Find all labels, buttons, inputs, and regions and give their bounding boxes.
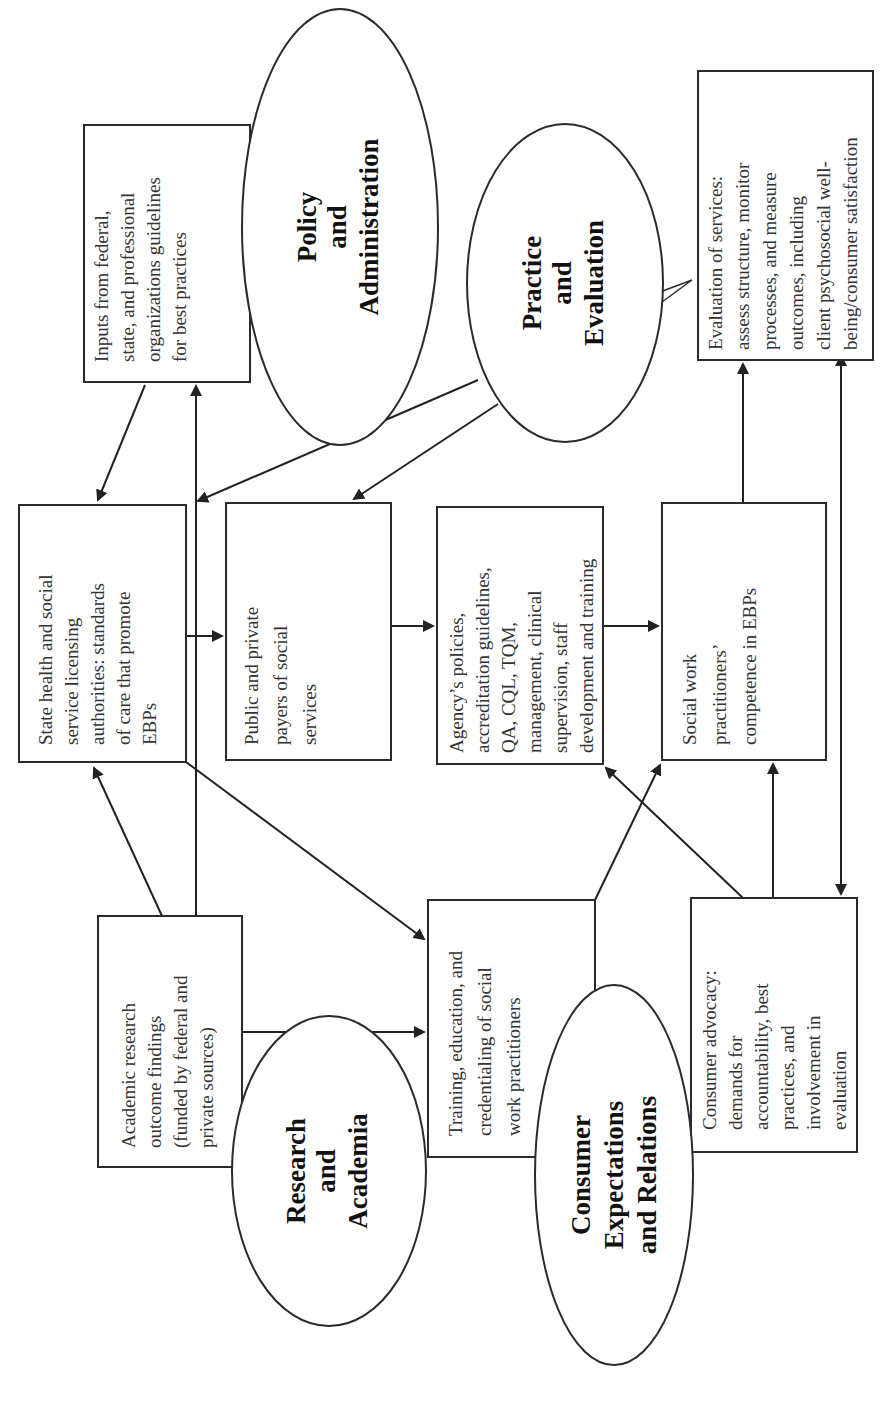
text-line: EBPs [139, 703, 160, 745]
text-line: Social work [679, 653, 700, 745]
text-line: QA, CQL, TQM, [498, 622, 519, 753]
text-line: Training, education, and [445, 950, 466, 1136]
evidence-based-practice-diagram: Inputs from federal, state, and professi… [0, 0, 895, 1415]
text-line: evaluation [829, 1050, 850, 1130]
text-line: outcomes, including [786, 195, 807, 350]
text-line: of care that promote [113, 591, 134, 745]
label-line: Research [281, 1118, 311, 1224]
text-line: supervision, staff [550, 622, 571, 753]
text-line: authorities: standards [87, 583, 108, 745]
text-line: being/consumer satisfaction [840, 137, 861, 350]
text-line: organizations guidelines [143, 177, 164, 362]
arrow-state-health-to-training [186, 762, 424, 939]
text-line: payers of social [270, 626, 291, 745]
label-line: and Relations [632, 1096, 662, 1254]
label-line: Practice [517, 236, 547, 330]
label-line: Evaluation [579, 220, 609, 346]
text-line: accountability, best [751, 983, 772, 1130]
text-line: for best practices [169, 232, 190, 362]
text-line: practitioners’ [709, 644, 730, 745]
label-line: Administration [354, 138, 384, 315]
consumer-label: Consumer Expectations and Relations [566, 1096, 662, 1254]
text-line: accreditation guidelines, [472, 567, 493, 753]
text-line: Public and private [241, 607, 262, 745]
text-line: Academic research [118, 1002, 139, 1148]
label-line: and [547, 261, 577, 305]
text-line: demands for [725, 1035, 746, 1130]
text-line: development and training [576, 558, 597, 753]
text-line: involvement in [803, 1015, 824, 1130]
text-line: private sources) [196, 1027, 218, 1148]
text-line: outcome findings [144, 1016, 165, 1148]
text-line: State health and social [35, 575, 56, 745]
callout-tail [660, 280, 692, 302]
text-line: credentialing of social [474, 967, 495, 1136]
label-line: Academia [343, 1113, 373, 1229]
text-line: services [299, 684, 320, 745]
text-line: management, clinical [524, 591, 545, 753]
text-line: Agency’s policies, [446, 613, 467, 753]
text-line: state, and professional [117, 193, 138, 362]
label-line: and [322, 205, 352, 249]
text-line: competence in EBPs [739, 588, 760, 745]
text-line: Evaluation of services: [705, 176, 726, 350]
label-line: Policy [292, 191, 322, 262]
text-line: Consumer advocacy: [699, 970, 720, 1130]
arrow-academic-to-state-health [94, 768, 162, 916]
text-line: client psychosocial well- [813, 161, 834, 350]
text-line: (funded by federal and [170, 975, 192, 1148]
text-line: service licensing [61, 617, 82, 745]
text-line: assess structure, monitor [732, 162, 753, 350]
label-line: Expectations [599, 1101, 629, 1250]
text-line: practices, and [777, 1025, 798, 1130]
text-line: Inputs from federal, [91, 211, 112, 362]
label-line: and [311, 1149, 341, 1193]
arrow-training-to-competence [595, 765, 660, 900]
label-line: Consumer [566, 1115, 596, 1235]
text-line: processes, and measure [759, 172, 780, 350]
text-line: work practitioners [503, 997, 524, 1136]
arrow-inputs-to-state-health [98, 385, 145, 500]
